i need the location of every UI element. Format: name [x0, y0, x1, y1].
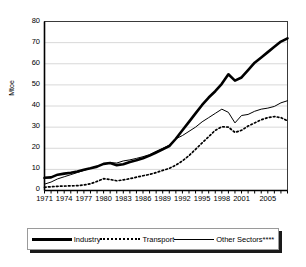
legend-label-transport: Transport — [142, 235, 174, 244]
series-line-industry — [45, 38, 288, 177]
series-line-other-sectors — [45, 101, 288, 184]
legend-label-industry: Industry — [74, 235, 101, 244]
legend-shadow-bottom — [30, 250, 282, 253]
x-tick-label-2001: 2001 — [230, 194, 254, 203]
thick-solid-line-icon — [32, 238, 72, 241]
legend-item-industry: Industry — [32, 235, 101, 244]
legend-item-transport: Transport — [100, 235, 174, 244]
line-chart: Mtoe 80 70 60 50 40 30 20 10 0 197119741… — [0, 0, 306, 267]
legend-label-other-sectors: Other Sectors**** — [216, 235, 274, 244]
legend-shadow-right — [279, 231, 282, 253]
dotted-line-icon — [100, 238, 140, 240]
legend-item-other-sectors: Other Sectors**** — [174, 235, 274, 244]
legend: Industry Transport Other Sectors**** — [27, 228, 279, 250]
x-tick-label-2005: 2005 — [256, 194, 280, 203]
data-series-group — [45, 38, 288, 187]
thin-solid-line-icon — [174, 239, 214, 240]
plot-area — [0, 0, 306, 267]
